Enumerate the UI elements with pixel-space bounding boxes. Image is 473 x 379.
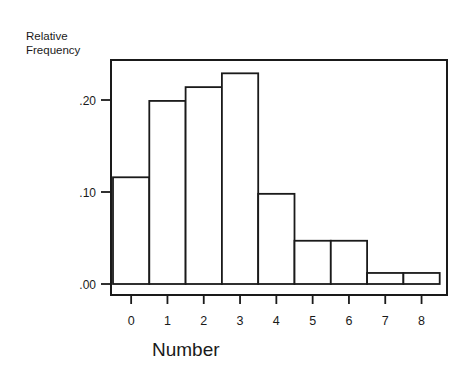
y-tick-label: .00 (79, 278, 96, 292)
x-tick-label: 7 (382, 314, 389, 328)
y-tick-label: .20 (79, 94, 96, 108)
x-tick-label: 6 (345, 314, 352, 328)
bar-4 (258, 194, 294, 284)
bar-5 (295, 241, 331, 284)
x-tick-label: 5 (309, 314, 316, 328)
bar-0 (113, 177, 149, 284)
x-tick-label: 4 (273, 314, 280, 328)
x-tick-label: 2 (200, 314, 207, 328)
bar-7 (367, 273, 403, 284)
bar-6 (331, 241, 367, 284)
histogram-chart: .00.10.20012345678 (0, 0, 473, 379)
x-tick-label: 1 (164, 314, 171, 328)
x-tick-label: 0 (128, 314, 135, 328)
bar-2 (186, 87, 222, 284)
x-tick-label: 8 (418, 314, 425, 328)
bar-8 (403, 273, 439, 284)
x-tick-label: 3 (237, 314, 244, 328)
bar-3 (222, 73, 258, 284)
bar-1 (149, 101, 185, 284)
y-tick-label: .10 (79, 186, 96, 200)
x-axis-label: Number (152, 339, 220, 361)
